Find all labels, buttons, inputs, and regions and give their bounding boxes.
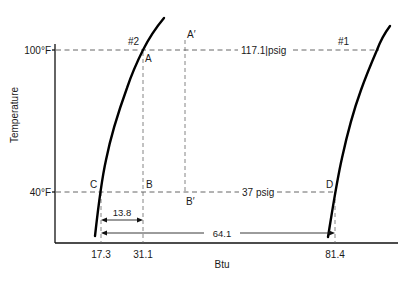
pressure-label-high: 117.1|psig bbox=[241, 45, 286, 56]
arrow-right-icon bbox=[137, 218, 143, 223]
refrigerant-enthalpy-diagram: 100°F 40°F Temperature 117.1|psig 37 psi… bbox=[0, 0, 413, 282]
dimension-label-c-d: 64.1 bbox=[213, 228, 232, 239]
x-tick-label-31-1: 31.1 bbox=[133, 249, 153, 260]
y-axis-label: Temperature bbox=[9, 86, 20, 143]
point-b-label: B bbox=[146, 179, 153, 190]
arrow-left-icon bbox=[101, 231, 107, 236]
point-d-label: D bbox=[326, 179, 333, 190]
curve-2 bbox=[95, 18, 164, 236]
point-b-prime-label: B′ bbox=[186, 196, 195, 207]
point-c-label: C bbox=[90, 179, 97, 190]
x-tick-label-81-4: 81.4 bbox=[325, 249, 345, 260]
arrow-left-icon bbox=[101, 218, 107, 223]
arrow-right-icon bbox=[329, 231, 335, 236]
point-a-prime-label: A′ bbox=[187, 29, 196, 40]
y-tick-label-40: 40°F bbox=[30, 187, 51, 198]
curve-1 bbox=[328, 26, 390, 237]
curve-2-label: #2 bbox=[128, 36, 140, 47]
x-tick-label-17-3: 17.3 bbox=[91, 249, 111, 260]
point-a-label: A bbox=[145, 53, 152, 64]
dimension-label-c-b: 13.8 bbox=[113, 207, 132, 218]
y-tick-label-100: 100°F bbox=[24, 45, 51, 56]
x-axis-label: Btu bbox=[214, 259, 229, 270]
curve-1-label: #1 bbox=[338, 36, 350, 47]
pressure-label-low: 37 psig bbox=[242, 187, 274, 198]
